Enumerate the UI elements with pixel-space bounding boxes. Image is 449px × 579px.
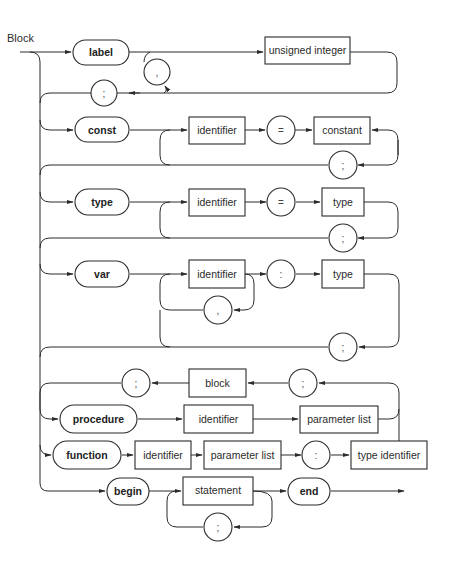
type-identifier-box: type identifier	[351, 441, 427, 469]
svg-text:var: var	[94, 268, 110, 280]
svg-text:end: end	[300, 485, 319, 497]
unsigned-integer-box: unsigned integer	[265, 37, 350, 64]
function-parameter-list-box: parameter list	[204, 441, 281, 469]
svg-text::: :	[315, 450, 318, 461]
svg-text:;: ;	[342, 342, 345, 353]
var-type-box: type	[322, 260, 364, 288]
svg-text:,: ,	[217, 305, 220, 316]
svg-text:label: label	[89, 46, 113, 58]
svg-text:=: =	[278, 197, 284, 208]
svg-text:;: ;	[103, 88, 106, 99]
svg-text:type: type	[91, 196, 113, 208]
type-identifier-box: identifier	[189, 189, 245, 216]
function-colon-symbol: :	[302, 441, 330, 469]
svg-text:constant: constant	[322, 124, 362, 136]
var-identifier-box: identifier	[189, 260, 245, 288]
procedure-identifier-box: identifier	[184, 405, 253, 433]
svg-text:identifier: identifier	[197, 124, 237, 136]
block-syntax-diagram: Block	[0, 0, 449, 579]
svg-text:;: ;	[342, 160, 345, 171]
svg-text:parameter list: parameter list	[307, 413, 371, 425]
svg-text:statement: statement	[195, 484, 241, 496]
svg-text:type: type	[333, 196, 353, 208]
constant-box: constant	[314, 117, 370, 144]
label-comma-symbol: ,	[144, 59, 170, 85]
procedure-keyword: procedure	[60, 405, 137, 433]
svg-text:const: const	[88, 124, 117, 136]
svg-text:identifier: identifier	[143, 449, 183, 461]
svg-text:;: ;	[135, 378, 138, 389]
var-colon-symbol: :	[267, 260, 295, 288]
statement-semicolon-symbol: ;	[204, 513, 232, 541]
svg-text:procedure: procedure	[73, 413, 125, 425]
type-equals-symbol: =	[267, 188, 295, 216]
svg-text:,: ,	[156, 67, 159, 78]
function-keyword: function	[53, 441, 121, 469]
statement-box: statement	[183, 477, 253, 505]
const-equals-symbol: =	[267, 116, 295, 144]
block-return-semicolon-left: ;	[122, 369, 150, 397]
svg-text:=: =	[278, 125, 284, 136]
svg-text::: :	[280, 269, 283, 280]
block-return-semicolon-right: ;	[289, 369, 317, 397]
svg-text:unsigned integer: unsigned integer	[269, 44, 347, 56]
const-semicolon-symbol: ;	[329, 151, 357, 179]
var-keyword: var	[75, 261, 129, 287]
procedure-parameter-list-box: parameter list	[300, 406, 378, 433]
svg-text:identifier: identifier	[197, 268, 237, 280]
label-semicolon-symbol: ;	[91, 80, 117, 106]
svg-text:type: type	[333, 268, 353, 280]
type-keyword: type	[75, 189, 129, 215]
function-identifier-box: identifier	[135, 441, 191, 469]
svg-text:identifier: identifier	[199, 413, 239, 425]
type-box: type	[322, 188, 364, 216]
label-keyword: label	[73, 40, 129, 65]
begin-keyword: begin	[107, 478, 149, 505]
svg-text:block: block	[205, 377, 230, 389]
svg-text:;: ;	[342, 233, 345, 244]
svg-text:parameter list: parameter list	[211, 449, 275, 461]
var-comma-symbol: ,	[204, 296, 232, 324]
svg-text:begin: begin	[114, 485, 142, 497]
type-semicolon-symbol: ;	[329, 224, 357, 252]
var-semicolon-symbol: ;	[329, 333, 357, 361]
svg-text:;: ;	[302, 378, 305, 389]
svg-text:function: function	[66, 449, 107, 461]
const-identifier-box: identifier	[189, 117, 245, 144]
block-box: block	[189, 369, 246, 397]
diagram-title: Block	[7, 32, 34, 44]
svg-text:type identifier: type identifier	[358, 449, 421, 461]
svg-text:;: ;	[217, 522, 220, 533]
svg-text:identifier: identifier	[197, 196, 237, 208]
end-keyword: end	[288, 478, 330, 505]
const-keyword: const	[75, 117, 129, 142]
